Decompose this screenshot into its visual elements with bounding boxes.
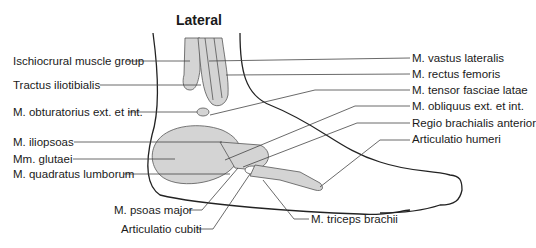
label-rectus-femoris: M. rectus femoris <box>412 68 500 81</box>
label-obturatorius: M. obturatorius ext. et int. <box>13 106 143 119</box>
long-bone <box>250 165 322 191</box>
label-ischiocrural: Ischiocrural muscle group <box>13 55 144 68</box>
upper-muscle-vastus <box>198 38 228 106</box>
obturator-oval <box>197 108 209 116</box>
label-iliopsoas: M. iliopsoas <box>13 136 74 149</box>
label-regio-brachialis: Regio brachialis anterior <box>412 117 536 130</box>
label-obliquus: M. obliquus ext. et int. <box>412 100 524 113</box>
upper-muscle-ischiocrural <box>183 38 200 90</box>
label-articulatio-humeri: Articulatio humeri <box>412 133 501 146</box>
label-glutaei: Mm. glutaei <box>13 153 72 166</box>
label-psoas-major: M. psoas major <box>114 204 193 217</box>
label-quadratus-lumborum: M. quadratus lumborum <box>13 168 134 181</box>
label-tractus-iliotibialis: Tractus iliotibialis <box>13 79 100 92</box>
label-articulatio-cubiti: Articulatio cubiti <box>121 223 202 236</box>
label-triceps-brachii: M. triceps brachii <box>311 213 398 226</box>
label-vastus-lateralis: M. vastus lateralis <box>412 52 504 65</box>
label-tensor-fasciae-latae: M. tensor fasciae latae <box>412 84 528 97</box>
